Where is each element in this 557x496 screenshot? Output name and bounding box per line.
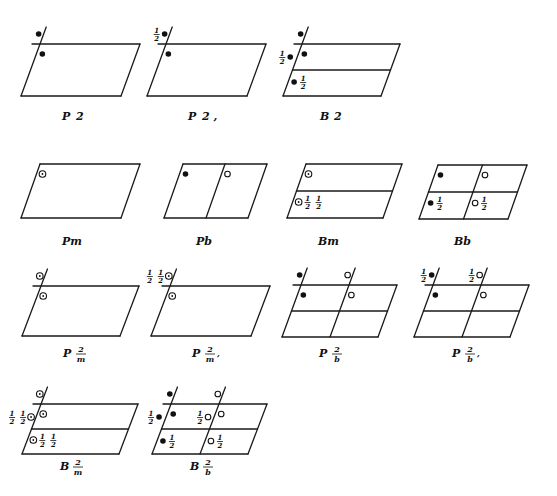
cell-left-edge <box>414 268 439 337</box>
cell-p21-m: 1212P2m, <box>146 268 270 364</box>
mirror-center-dot <box>39 393 41 395</box>
label-lattice: P <box>61 110 71 123</box>
label-plane: b <box>334 354 340 364</box>
label-axis-num: 2 <box>204 457 211 467</box>
open-circle-icon <box>215 391 221 397</box>
fraction-denominator: 2 <box>197 417 203 426</box>
cell-label: P2m <box>62 344 86 364</box>
cell-b2-m: 12121212B2m <box>9 387 138 477</box>
label-lattice: B <box>189 460 199 473</box>
filled-circle-icon <box>291 79 297 85</box>
cell-right-edge <box>251 286 270 336</box>
cell-label: Bm <box>317 235 339 248</box>
cell-right-edge <box>248 164 267 218</box>
label-lattice: P <box>62 347 72 360</box>
label-axis-num: 2 <box>333 344 340 354</box>
cell-left-edge <box>21 164 40 218</box>
filled-circle-icon <box>170 411 176 417</box>
fraction-denominator: 2 <box>9 417 15 426</box>
label-lattice: P <box>318 347 328 360</box>
fraction-denominator: 2 <box>153 34 159 43</box>
cell-label: Bb <box>453 235 471 248</box>
cell-label: B2m <box>59 457 83 477</box>
cell-p21: 12P2 , <box>147 26 266 123</box>
open-circle-icon <box>218 411 224 417</box>
mirror-center-dot <box>32 439 34 441</box>
cell-right-edge <box>121 164 140 218</box>
filled-circle-icon <box>297 272 303 278</box>
filled-circle-icon <box>156 414 162 420</box>
cell-left-edge <box>147 27 172 96</box>
cell-label: P2 <box>61 110 84 123</box>
cell-mid-vertical <box>206 164 225 218</box>
open-circle-icon <box>225 171 231 177</box>
mirror-center-dot <box>42 173 44 175</box>
open-circle-icon <box>205 414 211 420</box>
cell-label: B2b <box>189 457 213 477</box>
label-axis-num: 2 <box>77 344 84 354</box>
label-plane: b <box>467 354 473 364</box>
filled-circle-icon <box>287 54 293 60</box>
cell-b2: 1212B2 <box>279 27 400 123</box>
cell-left-edge <box>21 27 46 96</box>
label-lattice: Pb <box>195 235 212 248</box>
open-circle-icon <box>481 292 487 298</box>
mirror-center-dot <box>42 295 44 297</box>
fraction-denominator: 2 <box>217 441 223 450</box>
filled-circle-icon <box>162 31 168 37</box>
label-axis: 2 , <box>201 110 217 123</box>
open-circle-icon <box>349 292 355 298</box>
mirror-center-dot <box>39 275 41 277</box>
open-circle-icon <box>482 172 488 178</box>
cell-label: P2 , <box>187 110 217 123</box>
label-lattice: P <box>191 347 201 360</box>
label-plane: m <box>206 354 214 364</box>
cell-pm: Pm <box>21 164 140 248</box>
fraction-denominator: 2 <box>169 441 175 450</box>
label-plane: m <box>74 467 82 477</box>
filled-circle-icon <box>429 272 435 278</box>
cell-p21-b: 1212P2b, <box>414 267 529 364</box>
label-axis-num: 2 <box>74 457 81 467</box>
fraction-denominator: 2 <box>420 275 426 284</box>
monoclinic-cell-diagrams: P212P2 ,1212B2PmPb1212Bm1212BbP2m1212P2m… <box>0 0 557 496</box>
label-lattice: Bm <box>317 235 339 248</box>
label-lattice: Bb <box>453 235 471 248</box>
filled-circle-icon <box>36 31 42 37</box>
cell-label: P2m, <box>191 344 220 364</box>
fraction-denominator: 2 <box>315 202 321 211</box>
cell-bm: 1212Bm <box>287 164 402 248</box>
fraction-denominator: 2 <box>146 276 152 285</box>
label-axis: 2 <box>333 110 342 123</box>
cell-left-edge <box>282 268 307 337</box>
label-lattice: Pm <box>61 235 82 248</box>
label-lattice: B <box>319 110 329 123</box>
mirror-center-dot <box>30 416 32 418</box>
cell-p2: P2 <box>21 27 140 123</box>
filled-circle-icon <box>428 200 434 206</box>
label-screw-mark: , <box>476 348 480 358</box>
label-lattice: P <box>187 110 197 123</box>
mirror-center-dot <box>298 201 300 203</box>
filled-circle-icon <box>160 438 166 444</box>
cell-p2-m: P2m <box>22 269 139 364</box>
label-axis: 2 <box>75 110 84 123</box>
filled-circle-icon <box>167 391 173 397</box>
label-lattice: B <box>59 460 69 473</box>
cell-left-edge <box>22 269 47 336</box>
filled-circle-icon <box>301 292 307 298</box>
cell-label: P2b <box>318 344 342 364</box>
cell-right-edge <box>121 44 140 96</box>
cell-left-edge <box>164 164 183 218</box>
filled-circle-icon <box>298 31 304 37</box>
fraction-denominator: 2 <box>39 440 45 449</box>
cell-label: Pm <box>61 235 82 248</box>
label-plane: b <box>205 467 211 477</box>
fraction-denominator: 2 <box>481 203 487 212</box>
cell-label: P2b, <box>451 344 480 364</box>
fraction-denominator: 2 <box>304 202 310 211</box>
cell-p2-b: P2b <box>282 268 397 364</box>
mirror-center-dot <box>168 275 170 277</box>
open-circle-icon <box>208 438 214 444</box>
fraction-denominator: 2 <box>20 417 26 426</box>
